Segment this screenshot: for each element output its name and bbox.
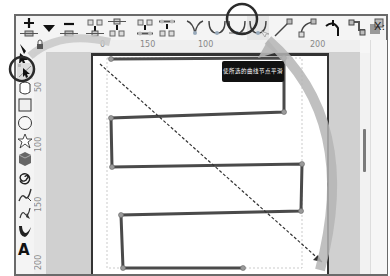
calligraphy-tool[interactable] (17, 223, 33, 239)
ruler-label: 200 (310, 40, 325, 49)
toolbox: A (16, 52, 34, 274)
horizontal-ruler: 0 150 100 200 (40, 40, 360, 53)
symmetric-node-button[interactable] (226, 16, 248, 40)
node-toolbar (16, 16, 386, 40)
rectangle-tool[interactable] (17, 97, 33, 113)
line-segment-button[interactable] (272, 16, 294, 40)
vertical-scrollbar[interactable] (360, 53, 370, 274)
3d-box-tool[interactable] (17, 151, 33, 167)
join-nodes-button[interactable] (84, 16, 106, 40)
ellipse-tool[interactable] (17, 115, 33, 131)
text-tool[interactable]: A (17, 241, 33, 257)
tooltip: 使所选的曲线节点平滑 (222, 61, 284, 82)
ruler-label: 100 (198, 40, 213, 49)
ruler-label: 50 (34, 82, 43, 92)
star-tool[interactable] (17, 133, 33, 149)
pen-tool[interactable] (17, 205, 33, 221)
curve-segment-button[interactable] (296, 16, 318, 40)
break-path-button[interactable] (106, 16, 128, 40)
insert-node-button[interactable] (18, 16, 40, 40)
right-panel-strip (370, 40, 387, 274)
delete-segment-button[interactable] (156, 16, 178, 40)
spiral-tool[interactable] (17, 169, 33, 185)
ruler-label: 150 (140, 40, 155, 49)
canvas[interactable] (47, 53, 360, 274)
smooth-node-button[interactable] (247, 16, 269, 40)
object-to-path-button[interactable] (322, 16, 344, 40)
vertical-ruler: 50 100 150 200 (34, 52, 47, 274)
ruler-label: 150 (34, 197, 43, 212)
svg-text:A: A (18, 241, 30, 257)
join-segment-button[interactable] (134, 16, 156, 40)
cusp-node-button[interactable] (184, 16, 206, 40)
ruler-label: 200 (34, 255, 43, 270)
stroke-to-path-button[interactable] (346, 16, 368, 40)
delete-node-button[interactable] (58, 16, 80, 40)
x-coordinate-label: X: (374, 20, 385, 33)
scrollbar-thumb[interactable] (363, 129, 366, 172)
ruler-label: 100 (34, 137, 43, 152)
tweak-tool[interactable] (17, 80, 33, 96)
node-tool[interactable] (17, 63, 33, 79)
join-nodes-dropdown[interactable] (38, 16, 60, 40)
pencil-tool[interactable] (17, 187, 33, 203)
ruler-label: 0 (100, 40, 105, 49)
smooth-node-button-alt[interactable] (206, 16, 228, 40)
page-area (91, 53, 329, 274)
